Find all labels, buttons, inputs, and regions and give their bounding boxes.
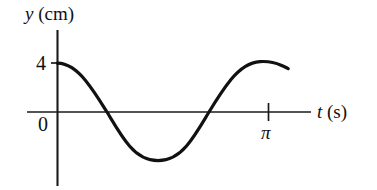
plot-area <box>0 0 377 190</box>
y-tick-label-4: 4 <box>36 53 46 73</box>
x-axis-title: t (s) <box>317 102 347 121</box>
cosine-curve <box>58 61 289 160</box>
y-axis-unit: (cm) <box>33 3 74 24</box>
origin-label: 0 <box>38 114 48 134</box>
x-axis-unit: (s) <box>322 101 347 122</box>
x-tick-label-pi: π <box>261 123 271 142</box>
y-axis-title: y (cm) <box>25 4 74 23</box>
figure-canvas: y (cm) t (s) 4 0 π <box>0 0 377 190</box>
